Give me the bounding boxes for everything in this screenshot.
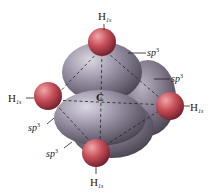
- methane-orbital-diagram: H1s H1s H1s H1s C sp3 sp3 sp3 sp3: [0, 0, 213, 193]
- h1s-sphere-top: [88, 28, 116, 56]
- h1s-label-top: H1s: [98, 10, 112, 23]
- h1s-label-right: H1s: [190, 101, 204, 114]
- h1s-sphere-right: [156, 92, 184, 120]
- sp3-label-lower-left: sp3: [28, 122, 40, 133]
- sp3-label-bottom-left: sp3: [46, 148, 58, 159]
- h1s-sphere-left: [34, 82, 62, 110]
- sp3-label-right: sp3: [171, 73, 183, 84]
- carbon-label: C: [96, 91, 104, 103]
- h1s-label-bottom: H1s: [90, 176, 104, 189]
- sp3-label-upper-right: sp3: [147, 47, 159, 58]
- h1s-sphere-bottom: [82, 139, 110, 167]
- h1s-label-left: H1s: [8, 92, 22, 105]
